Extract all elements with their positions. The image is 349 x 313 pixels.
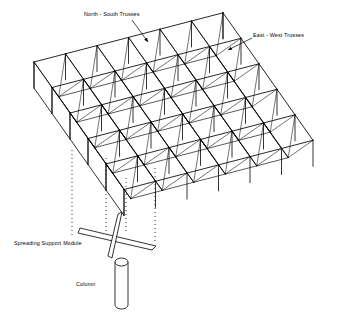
label-spreading-support-module: Spreading Support Module [14, 241, 82, 246]
label-column: Column [76, 282, 95, 287]
truss-structure [34, 13, 313, 216]
truss-drawing [0, 0, 349, 313]
label-north-south-trusses: North - South Trusses [84, 12, 140, 17]
leader-lines [132, 20, 252, 50]
leader-north-south [132, 20, 148, 42]
label-east-west-trusses: East - West Trusses [253, 33, 304, 38]
space-frame-diagram: North - South Trusses East - West Trusse… [0, 0, 349, 313]
